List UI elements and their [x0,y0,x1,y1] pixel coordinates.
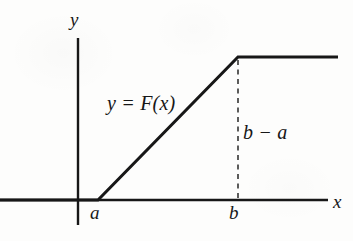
y-axis-label: y [70,10,78,29]
segment-length-label: b − a [243,122,288,142]
x-axis-label: x [333,192,341,211]
curve-equation-label: y = F(x) [107,93,175,113]
x-tick-label-a: a [90,203,100,222]
x-tick-label-b: b [229,203,239,222]
graph-canvas [0,0,353,241]
figure-container: y x a b y = F(x) b − a [0,0,353,241]
